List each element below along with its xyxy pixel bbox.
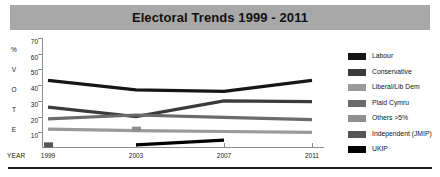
legend-item-others-5-[interactable]: Others >5% [348, 114, 408, 123]
series-marker-independent-jmip- [44, 142, 53, 147]
series-line-liberal-lib-dem [48, 129, 312, 132]
legend-swatch-icon [348, 69, 366, 76]
legend-item-independent-jmip-[interactable]: Independent (JMIP) [348, 130, 432, 139]
y-tick-label: 50 [31, 69, 38, 76]
legend-label: Liberal/Lib Dem [372, 84, 420, 91]
page-title: Electoral Trends 1999 - 2011 [10, 5, 430, 30]
legend-item-labour[interactable]: Labour [348, 52, 393, 61]
legend-label: Conservative [372, 69, 412, 76]
chart-page: Electoral Trends 1999 - 2011 %VOTE 70605… [0, 0, 440, 177]
footer-divider [8, 167, 432, 169]
legend-item-ukip[interactable]: UKIP [348, 145, 388, 154]
legend-label: UKIP [372, 146, 388, 153]
y-axis-caption: %VOTE [8, 47, 20, 133]
series-line-ukip [136, 140, 224, 145]
series-lines [42, 38, 324, 148]
y-tick-label: 20 [31, 116, 38, 123]
y-tick-label: 60 [31, 53, 38, 60]
x-tick-label: 2003 [129, 152, 143, 159]
y-axis-caption-letter-3: T [12, 107, 16, 114]
title-banner: Electoral Trends 1999 - 2011 [10, 5, 430, 30]
x-tick-label: 2011 [305, 152, 319, 159]
y-axis-caption-letter-0: % [11, 47, 17, 54]
legend-item-liberal-lib-dem[interactable]: Liberal/Lib Dem [348, 83, 420, 92]
legend-item-conservative[interactable]: Conservative [348, 68, 412, 77]
y-tick-label: 10 [31, 132, 38, 139]
legend-label: Independent (JMIP) [372, 131, 432, 138]
legend-label: Plaid Cymru [372, 100, 409, 107]
x-tick-label: 2007 [217, 152, 231, 159]
legend-swatch-icon [348, 53, 366, 60]
legend-swatch-icon [348, 115, 366, 122]
y-axis-caption-letter-1: V [12, 67, 16, 74]
series-marker-others-5- [132, 127, 141, 132]
x-tick-label: 1999 [41, 152, 55, 159]
y-tick-label: 40 [31, 85, 38, 92]
plot-area [42, 38, 324, 148]
legend: LabourConservativeLiberal/Lib DemPlaid C… [348, 52, 440, 160]
y-tick-label: 30 [31, 100, 38, 107]
x-axis-caption: YEAR [7, 152, 26, 159]
legend-label: Others >5% [372, 115, 408, 122]
y-axis-caption-letter-4: E [12, 127, 16, 134]
y-tick-label: 70 [31, 38, 38, 45]
series-line-plaid-cymru [48, 115, 312, 120]
y-axis-caption-letter-2: O [11, 87, 16, 94]
legend-swatch-icon [348, 84, 366, 91]
legend-swatch-icon [348, 131, 366, 138]
legend-item-plaid-cymru[interactable]: Plaid Cymru [348, 99, 409, 108]
x-axis-labels: YEAR 1999200320072011 [0, 152, 340, 162]
series-line-conservative [48, 101, 312, 117]
legend-swatch-icon [348, 146, 366, 153]
y-axis-tick-labels: 70605040302010 [22, 36, 38, 146]
series-line-labour [48, 80, 312, 91]
legend-swatch-icon [348, 100, 366, 107]
legend-label: Labour [372, 53, 393, 60]
